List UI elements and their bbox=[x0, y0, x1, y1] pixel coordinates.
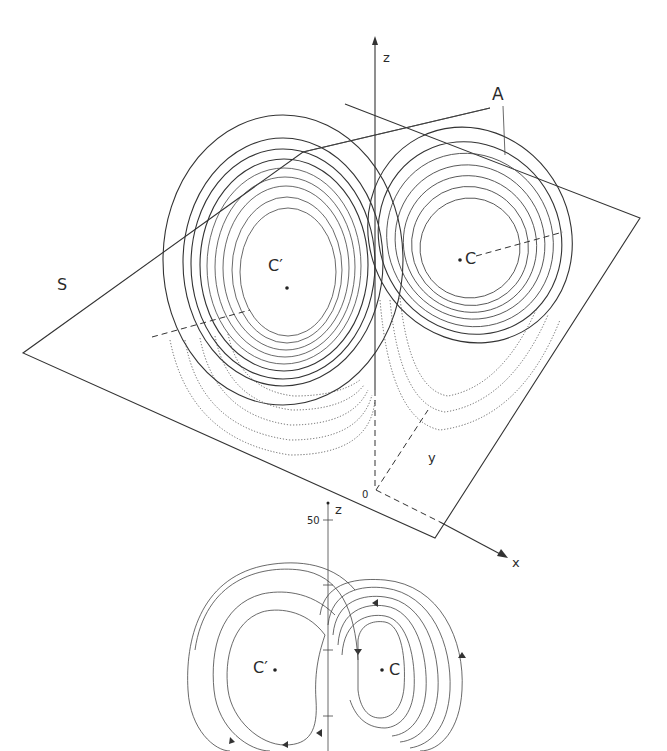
fixed-point-c-prime-bottom: C′ bbox=[253, 658, 277, 677]
svg-text:C′: C′ bbox=[253, 658, 268, 677]
axis-y-label: y bbox=[428, 450, 436, 465]
axis-z-bottom: 50 z bbox=[307, 502, 342, 751]
projection-crossing-orbit bbox=[195, 569, 358, 660]
projection-left-lobe bbox=[188, 563, 355, 751]
z-tick-50: 50 bbox=[307, 515, 320, 526]
svg-text:A: A bbox=[492, 84, 504, 104]
fixed-point-c-top: C bbox=[458, 249, 476, 268]
fixed-point-c-prime-top: C′ bbox=[268, 256, 289, 290]
svg-text:C′: C′ bbox=[268, 256, 283, 275]
section-plane-s bbox=[23, 104, 640, 538]
axis-y: y bbox=[376, 410, 436, 490]
figure-bottom: 50 z C′ bbox=[188, 502, 466, 751]
axis-x-label: x bbox=[512, 555, 520, 570]
axis-z-label: z bbox=[383, 50, 390, 65]
figure-canvas: z y x 0 S A C′ C bbox=[0, 0, 667, 751]
svg-text:C: C bbox=[465, 249, 476, 268]
plane-label-s: S bbox=[57, 275, 67, 294]
figure-top: z y x 0 S A C′ C bbox=[23, 36, 640, 570]
origin-label: 0 bbox=[362, 489, 368, 500]
section-intersection-line bbox=[152, 232, 563, 337]
fixed-point-c-bottom: C bbox=[380, 660, 400, 679]
axis-z-label-bottom: z bbox=[335, 502, 342, 517]
axis-z-top: z bbox=[372, 36, 390, 488]
svg-text:C: C bbox=[389, 660, 400, 679]
axis-x: x bbox=[376, 490, 520, 570]
